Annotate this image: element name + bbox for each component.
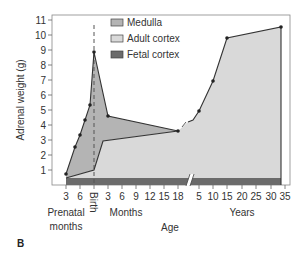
- fetal-cortex-band: [66, 178, 281, 185]
- legend-label-medulla: Medulla: [127, 17, 162, 28]
- y-axis: [48, 20, 52, 170]
- x-tick-months-12: 12: [144, 191, 156, 202]
- legend-swatch-fetal-cortex: [111, 51, 123, 58]
- x-tick-years-30: 30: [265, 191, 277, 202]
- y-tick-4: 4: [40, 120, 46, 131]
- x-axis-ticks: [66, 185, 285, 189]
- x-tick-months-15: 15: [158, 191, 170, 202]
- y-tick-1: 1: [40, 165, 46, 176]
- x-tick-months-6: 6: [119, 191, 125, 202]
- y-tick-10: 10: [35, 30, 47, 41]
- birth-label: Birth: [88, 192, 99, 213]
- x-tick-years-5: 5: [196, 191, 202, 202]
- x-tick-prenatal-3: 3: [63, 191, 69, 202]
- y-tick-6: 6: [40, 90, 46, 101]
- x-tick-years-25: 25: [250, 191, 262, 202]
- y-tick-labels: 1 2 3 4 5 6 7 8 9 10 11: [35, 15, 47, 176]
- x-tick-years-10: 10: [207, 191, 219, 202]
- prenatal-label: Prenatal: [47, 207, 84, 218]
- legend-swatch-medulla: [111, 19, 123, 26]
- x-tick-months-9: 9: [133, 191, 139, 202]
- x-tick-months-3: 3: [105, 191, 111, 202]
- y-axis-label: Adrenal weight (g): [15, 59, 26, 140]
- y-tick-2: 2: [40, 150, 46, 161]
- y-tick-9: 9: [40, 45, 46, 56]
- months-label: Months: [110, 207, 143, 218]
- x-tick-prenatal-6: 6: [77, 191, 83, 202]
- x-axis-label: Age: [161, 222, 179, 233]
- y-tick-11: 11: [36, 15, 47, 26]
- y-tick-5: 5: [40, 105, 46, 116]
- legend-label-fetal-cortex: Fetal cortex: [127, 49, 179, 60]
- x-tick-years-20: 20: [236, 191, 248, 202]
- x-tick-years-15: 15: [221, 191, 233, 202]
- prenatal-months-label: months: [50, 221, 83, 232]
- adrenal-weight-chart: 1 2 3 4 5 6 7 8 9 10 11 Adrenal weight (…: [0, 0, 300, 254]
- years-label: Years: [229, 207, 254, 218]
- figure-label: B: [17, 238, 24, 249]
- legend-swatch-adult-cortex: [111, 35, 123, 42]
- x-tick-months-18: 18: [172, 191, 184, 202]
- y-tick-8: 8: [40, 60, 46, 71]
- y-tick-7: 7: [40, 75, 46, 86]
- x-tick-years-35: 35: [279, 191, 291, 202]
- y-tick-3: 3: [40, 135, 46, 146]
- legend-label-adult-cortex: Adult cortex: [127, 33, 180, 44]
